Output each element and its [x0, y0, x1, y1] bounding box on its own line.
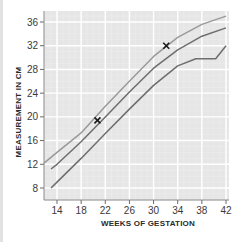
y-tick-label: 16	[27, 135, 39, 146]
x-tick-label: 30	[148, 205, 160, 216]
x-tick-label: 22	[100, 205, 112, 216]
y-tick-label: 28	[27, 64, 39, 75]
y-tick-label: 12	[27, 159, 39, 170]
y-tick-label: 24	[27, 88, 39, 99]
y-axis-title: MEASUREMENT IN CM	[14, 66, 23, 157]
y-tick-label: 32	[27, 40, 39, 51]
x-tick-label: 18	[76, 205, 88, 216]
x-tick-label: 26	[124, 205, 136, 216]
x-tick-label: 34	[172, 205, 184, 216]
y-tick-label: 36	[27, 17, 39, 28]
growth-chart: 1418222630343842 812162024283236 WEEKS O…	[0, 0, 240, 242]
y-tick-label: 20	[27, 111, 39, 122]
x-axis-ticks: 1418222630343842	[51, 200, 232, 216]
x-axis-title: WEEKS OF GESTATION	[101, 219, 195, 228]
y-axis-ticks: 812162024283236	[27, 17, 44, 194]
x-tick-label: 14	[51, 205, 63, 216]
x-tick-label: 38	[196, 205, 208, 216]
y-tick-label: 8	[32, 183, 38, 194]
x-tick-label: 42	[220, 205, 232, 216]
